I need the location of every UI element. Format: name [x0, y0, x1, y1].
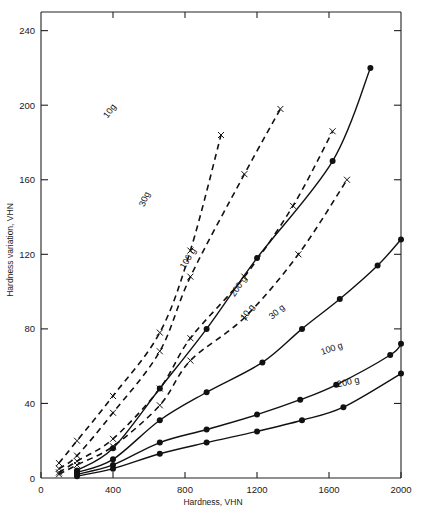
marker-dot: [297, 397, 303, 403]
marker-dot: [254, 428, 260, 434]
marker-dot: [157, 451, 163, 457]
hardness-variation-chart: 0400800120016002000 04080120160200240 10…: [0, 0, 426, 513]
marker-dot: [398, 371, 404, 377]
marker-dot: [110, 445, 116, 451]
marker-dot: [157, 386, 163, 392]
x-tick-label: 1200: [246, 484, 267, 495]
x-tick-label: 2000: [390, 484, 411, 495]
chart-figure: 0400800120016002000 04080120160200240 10…: [0, 0, 426, 513]
marker-dot: [398, 341, 404, 347]
x-tick-label: 800: [177, 484, 193, 495]
y-tick-label: 40: [24, 398, 35, 409]
marker-dot: [254, 412, 260, 418]
x-tick-label: 1600: [318, 484, 339, 495]
marker-dot: [259, 359, 265, 365]
marker-dot: [398, 236, 404, 242]
marker-dot: [204, 326, 210, 332]
marker-dot: [299, 417, 305, 423]
marker-dot: [330, 158, 336, 164]
marker-dot: [340, 404, 346, 410]
marker-dot: [387, 352, 393, 358]
x-tick-label: 0: [38, 484, 43, 495]
marker-dot: [337, 296, 343, 302]
y-axis-title: Hardness variation, VHN: [5, 203, 15, 297]
marker-dot: [204, 389, 210, 395]
marker-dot: [375, 263, 381, 269]
x-tick-label: 400: [105, 484, 121, 495]
marker-dot: [254, 255, 260, 261]
marker-dot: [367, 65, 373, 71]
chart-background: [0, 0, 426, 513]
marker-dot: [110, 466, 116, 472]
y-tick-label: 0: [30, 473, 35, 484]
marker-dot: [204, 427, 210, 433]
marker-dot: [157, 440, 163, 446]
x-axis-title: Hardness, VHN: [183, 497, 242, 507]
marker-dot: [110, 456, 116, 462]
marker-dot: [157, 417, 163, 423]
marker-dot: [299, 326, 305, 332]
y-tick-label: 200: [19, 100, 35, 111]
y-tick-label: 240: [19, 25, 35, 36]
y-tick-label: 160: [19, 174, 35, 185]
marker-dot: [204, 440, 210, 446]
y-tick-label: 80: [24, 323, 35, 334]
marker-dot: [74, 473, 80, 479]
y-tick-label: 120: [19, 249, 35, 260]
